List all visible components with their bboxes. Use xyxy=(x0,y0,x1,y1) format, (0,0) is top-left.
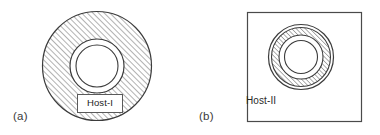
host-i-label: Host-I xyxy=(77,94,123,113)
panel-a: Host-I (a) xyxy=(0,0,190,135)
panel-b-caption: (b) xyxy=(199,110,214,122)
panel-a-caption: (a) xyxy=(13,110,28,122)
panel-b xyxy=(190,0,380,135)
figure-container: Host-I (a) Host-II (b) xyxy=(0,0,380,135)
host-ii-label: Host-II xyxy=(246,96,276,106)
